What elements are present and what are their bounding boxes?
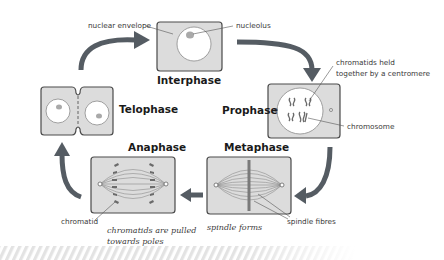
stage-label-telophase: Telophase bbox=[119, 103, 178, 115]
arrow-anaphase-to-telophase bbox=[54, 142, 81, 197]
stage-label-interphase: Interphase bbox=[157, 74, 221, 86]
label-towards-poles: towards poles bbox=[107, 237, 164, 246]
nucleolus-body bbox=[186, 32, 194, 39]
arrow-prophase-to-metaphase bbox=[294, 147, 330, 204]
stage-anaphase: Anaphase chromatid chromatids are pulled… bbox=[61, 141, 196, 246]
stage-prophase: Prophase chromatids held together by a c… bbox=[222, 58, 431, 138]
label-spindle-fibres: spindle fibres bbox=[287, 217, 336, 226]
label-chromatid: chromatid bbox=[61, 217, 98, 226]
stage-interphase: Interphase nuclear envelope nucleolus bbox=[88, 21, 271, 86]
label-spindle-forms: spindle forms bbox=[207, 223, 262, 232]
metaphase-plate-chromosomes bbox=[248, 160, 251, 211]
label-chromosome: chromosome bbox=[347, 122, 395, 131]
daughter-nucleus-right bbox=[85, 101, 109, 125]
label-nuclear-envelope: nuclear envelope bbox=[88, 21, 152, 30]
cell-cycle-diagram: Interphase nuclear envelope nucleolus Pr… bbox=[0, 0, 444, 260]
decorative-stripe-band bbox=[0, 246, 444, 260]
label-nucleolus: nucleolus bbox=[236, 21, 271, 30]
stage-label-metaphase: Metaphase bbox=[224, 141, 289, 153]
anaphase-cell bbox=[91, 157, 175, 213]
label-chromatids-pulled: chromatids are pulled bbox=[107, 226, 196, 235]
stage-telophase: Telophase bbox=[41, 87, 178, 135]
stage-metaphase: Metaphase spindle fibres spindle forms bbox=[207, 141, 336, 232]
arrow-telophase-to-interphase bbox=[81, 31, 150, 70]
label-chromatids-held: chromatids held bbox=[336, 58, 395, 67]
daughter-nucleus-left bbox=[46, 99, 70, 123]
nucleus bbox=[177, 27, 211, 61]
stage-label-prophase: Prophase bbox=[222, 104, 278, 116]
arrow-interphase-to-prophase bbox=[237, 42, 321, 82]
stage-label-anaphase: Anaphase bbox=[128, 141, 186, 153]
arrow-metaphase-to-anaphase bbox=[180, 188, 203, 202]
label-centromere: together by a centromere bbox=[336, 69, 431, 78]
nucleus bbox=[277, 88, 323, 134]
